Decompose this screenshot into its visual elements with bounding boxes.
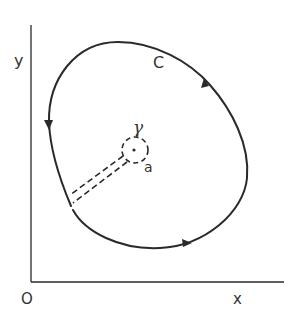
contour-c <box>49 42 247 248</box>
y-axis-label: y <box>14 51 23 70</box>
point-a-label: a <box>144 159 153 175</box>
arrow-left-down-icon <box>44 120 53 130</box>
origin-label: O <box>21 290 33 308</box>
contour-diagram: y O x C γ a <box>0 0 295 319</box>
gamma-label: γ <box>133 117 144 137</box>
cut-lines <box>70 156 127 203</box>
contour-label: C <box>153 53 164 72</box>
cut-line-upper <box>70 156 123 195</box>
x-axis-label: x <box>233 290 242 308</box>
point-a-dot <box>132 148 135 151</box>
cut-line-lower <box>73 162 127 203</box>
arrow-bottom-right-icon <box>182 239 192 247</box>
